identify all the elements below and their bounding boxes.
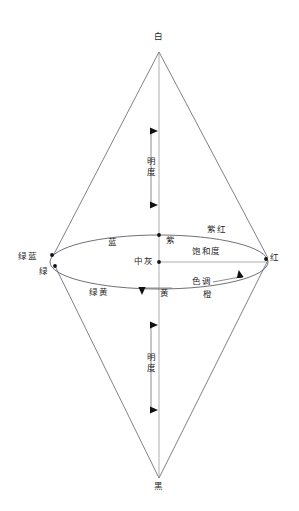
label-brightness-upper-char1: 明 xyxy=(146,156,156,167)
upper-cone-edges xyxy=(53,52,268,258)
label-green-yellow: 绿黄 xyxy=(89,288,108,297)
label-brightness-upper-char2: 度 xyxy=(146,167,156,178)
label-green: 绿 xyxy=(39,267,49,276)
label-red: 红 xyxy=(270,253,280,262)
color-model-diagram: 白 黑 明度 明度 饱和度 色调 中灰 红 紫红 紫 蓝 绿蓝 绿 绿黄 黄 橙 xyxy=(0,0,299,511)
label-black: 黑 xyxy=(154,482,164,491)
label-white: 白 xyxy=(154,32,164,41)
label-hue: 色调 xyxy=(192,277,211,286)
label-green-blue: 绿蓝 xyxy=(18,252,37,261)
label-brightness-lower-char2: 度 xyxy=(146,363,156,374)
label-yellow: 黄 xyxy=(160,289,170,298)
label-blue: 蓝 xyxy=(108,238,118,247)
label-brightness-lower: 明度 xyxy=(146,352,156,374)
label-orange: 橙 xyxy=(203,290,213,299)
label-middle-gray: 中灰 xyxy=(134,257,153,266)
label-saturation: 饱和度 xyxy=(192,247,221,256)
label-purple: 紫 xyxy=(166,236,176,245)
label-brightness-upper: 明度 xyxy=(146,156,156,178)
label-brightness-lower-char1: 明 xyxy=(146,352,156,363)
label-magenta: 紫红 xyxy=(207,225,226,234)
